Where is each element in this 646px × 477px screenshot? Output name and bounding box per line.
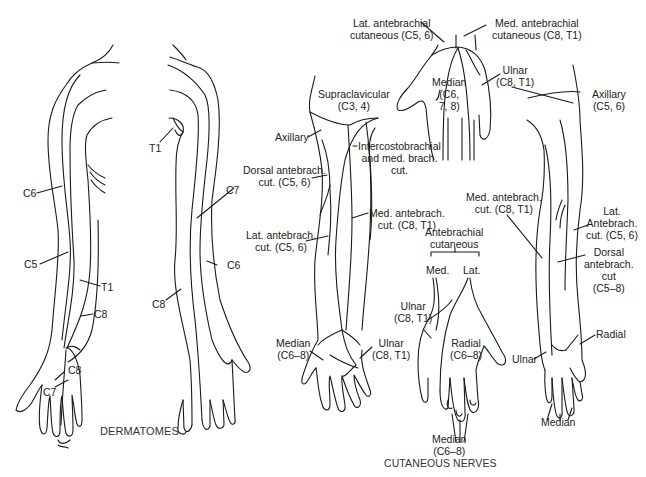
label-lat-antebrach-anterior: Lat. Antebrach. cut. (C5, 6) xyxy=(586,205,638,241)
anatomy-line-art xyxy=(0,0,646,477)
label-median-anterior: Median xyxy=(541,416,575,428)
label-c7-front-hand: C7 xyxy=(43,386,56,398)
label-intercostobrachial: Intercostobrachial and med. brach. cut. xyxy=(358,140,441,176)
label-t1-back: T1 xyxy=(149,142,161,154)
label-c8-front-hand: C8 xyxy=(68,364,81,376)
label-median-dorsal: Median (C6–8) xyxy=(432,433,466,457)
dermatome-back-arm-drawing xyxy=(168,45,250,434)
label-c6-back: C6 xyxy=(227,259,240,271)
label-med-dorsal: Med. xyxy=(426,264,449,276)
label-c5-front: C5 xyxy=(24,258,37,270)
label-med-antebrach-anterior: Med. antebrach. cut. (C8, T1) xyxy=(466,191,542,215)
label-c8-front-forearm: C8 xyxy=(94,308,107,320)
label-dorsal-antebrach-posterior: Dorsal antebrach. cut. (C5, 6) xyxy=(243,164,326,188)
label-median-palm: Median (C6, 7, 8) xyxy=(432,76,466,112)
label-lat-dorsal: Lat. xyxy=(463,264,481,276)
label-c7-back: C7 xyxy=(226,184,239,196)
label-ulnar-anterior: Ulnar xyxy=(512,353,537,365)
label-supraclavicular: Supraclavicular (C3, 4) xyxy=(318,88,390,112)
label-lat-antebrach-posterior: Lat. antebrach. cut. (C5, 6) xyxy=(246,229,316,253)
label-c6-front: C6 xyxy=(23,187,36,199)
label-axillary-posterior: Axillary xyxy=(275,131,309,143)
label-c8-back: C8 xyxy=(152,298,165,310)
label-axillary-anterior: Axillary (C5, 6) xyxy=(592,88,626,112)
label-ulnar-dorsal: Ulnar (C8, T1) xyxy=(394,300,432,324)
cutaneous-anterior-arm-drawing xyxy=(527,65,586,418)
dermatomes-title: DERMATOMES xyxy=(100,425,179,437)
label-ulnar-palm: Ulnar (C8, T1) xyxy=(496,64,534,88)
dermatome-front-arm-drawing xyxy=(16,45,119,448)
label-ulnar-posterior: Ulnar (C8, T1) xyxy=(372,337,410,361)
label-radial-dorsal: Radial (C6–8) xyxy=(450,337,482,361)
label-antebrachial-cutaneous: Antebrachial cutaneous xyxy=(425,226,483,250)
label-dorsal-antebrach-anterior: Dorsal antebrach. cut (C5–8) xyxy=(584,246,634,294)
cutaneous-nerves-title: CUTANEOUS NERVES xyxy=(384,457,497,469)
label-radial-anterior: Radial xyxy=(596,328,626,340)
label-t1-front: T1 xyxy=(101,281,113,293)
label-lat-antebrachial-palm: Lat. antebrachial cutaneous (C5, 6) xyxy=(350,17,433,41)
label-median-posterior: Median (C6–8) xyxy=(276,337,310,361)
label-med-antebrachial-palm: Med. antebrachial cutaneous (C8, T1) xyxy=(492,17,582,41)
